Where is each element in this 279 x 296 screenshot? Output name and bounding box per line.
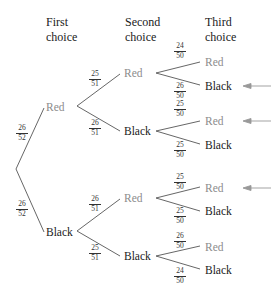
prob-l3-rrb: 26 50 <box>174 82 186 100</box>
prob-l2-red-red: 25 51 <box>89 70 101 88</box>
node-l3-rrb: Black <box>205 79 232 93</box>
node-l3-rbb: Black <box>205 138 232 152</box>
header-second-line1: Second <box>125 15 160 30</box>
arrow-icon-rbr <box>243 119 271 124</box>
node-l3-bbr: Red <box>205 240 224 254</box>
node-l3-bbb: Black <box>205 263 232 277</box>
prob-l3-brr: 25 50 <box>174 173 186 191</box>
branch-rr-red <box>156 62 200 73</box>
prob-l3-rbb: 25 50 <box>174 141 186 159</box>
header-first-line2: choice <box>46 30 77 45</box>
arrow-icon-rrb <box>243 84 271 89</box>
node-l2-black-red: Red <box>124 191 143 205</box>
header-third-line1: Third <box>205 15 236 30</box>
prob-l3-brb: 25 50 <box>174 207 186 225</box>
prob-l3-bbr: 26 50 <box>174 232 186 250</box>
prob-l3-rbr: 25 50 <box>174 100 186 118</box>
node-l3-rbr: Red <box>205 114 224 128</box>
node-l3-brb: Black <box>205 204 232 218</box>
branch-rb-red <box>156 121 200 131</box>
header-third-line2: choice <box>205 30 236 45</box>
header-first-choice: First choice <box>46 15 77 45</box>
prob-l2-black-red: 26 51 <box>89 195 101 213</box>
node-l3-brr: Red <box>205 181 224 195</box>
prob-l2-black-black: 25 51 <box>89 244 101 262</box>
node-l3-rrr: Red <box>205 55 224 69</box>
prob-l3-bbb: 24 50 <box>174 267 186 285</box>
node-l2-red-red: Red <box>124 66 143 80</box>
arrow-icon-brr <box>243 186 271 191</box>
node-l1-red: Red <box>46 100 65 114</box>
header-second-choice: Second choice <box>125 15 160 45</box>
header-third-choice: Third choice <box>205 15 236 45</box>
node-l2-black-black: Black <box>124 249 151 263</box>
header-first-line1: First <box>46 15 77 30</box>
header-second-line2: choice <box>125 30 160 45</box>
node-l2-red-black: Black <box>124 124 151 138</box>
prob-l2-red-black: 26 51 <box>89 119 101 137</box>
prob-l1-black: 26 52 <box>16 200 28 218</box>
node-l1-black: Black <box>46 225 73 239</box>
prob-l3-rrr: 24 50 <box>174 42 186 60</box>
prob-l1-red: 26 52 <box>16 124 28 142</box>
